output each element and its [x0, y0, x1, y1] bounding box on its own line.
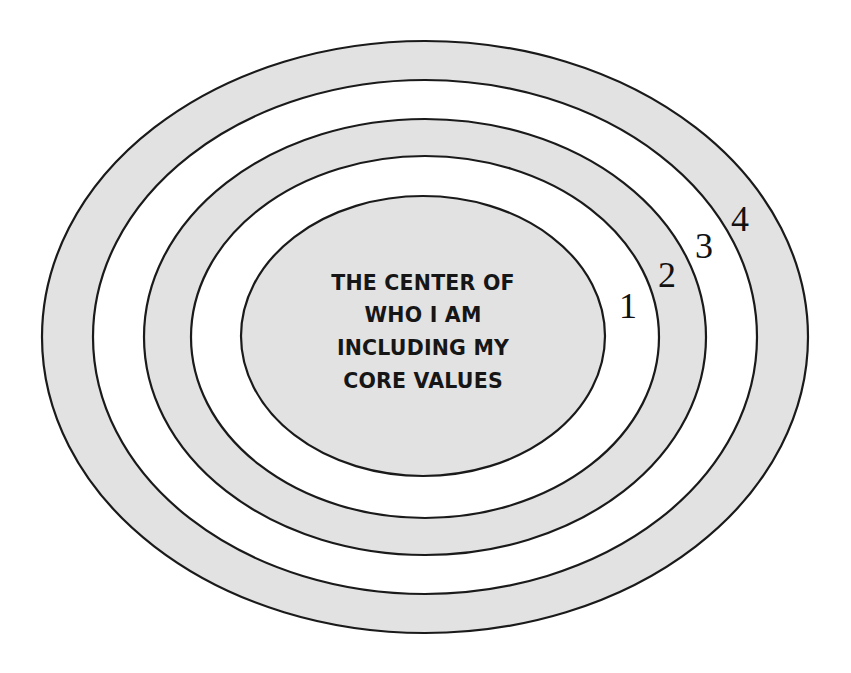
center-text-line-3: INCLUDING MY	[337, 336, 510, 360]
ring-label-2: 2	[658, 255, 676, 295]
center-text-line-2: WHO I AM	[365, 303, 482, 327]
center-text-line-4: CORE VALUES	[343, 369, 503, 393]
ring-label-3: 3	[695, 226, 713, 266]
ring-label-1: 1	[619, 286, 637, 326]
concentric-circles-diagram: THE CENTER OF WHO I AM INCLUDING MY CORE…	[0, 0, 851, 673]
center-text-line-1: THE CENTER OF	[331, 271, 514, 295]
ring-label-4: 4	[731, 199, 749, 239]
